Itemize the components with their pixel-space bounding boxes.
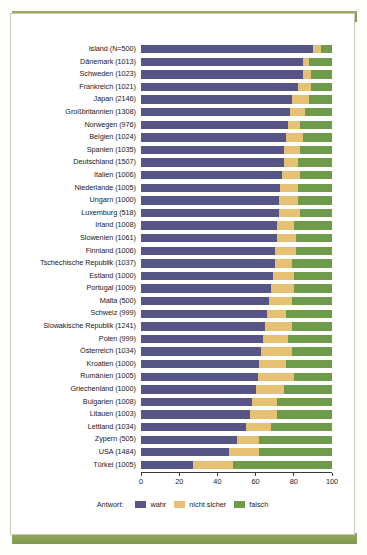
stacked-bar <box>141 108 332 116</box>
bar-segment-falsch <box>271 423 332 431</box>
bar-segment-wahr <box>141 234 277 242</box>
bar-segment-nicht-sicher <box>250 410 277 418</box>
bar-segment-falsch <box>294 373 332 381</box>
bar-segment-falsch <box>296 234 332 242</box>
category-label: Niederlande (1005) <box>10 182 141 195</box>
bar-segment-wahr <box>141 310 267 318</box>
bar-segment-falsch <box>294 221 332 229</box>
chart-row: Zypern (505) <box>10 433 355 446</box>
bar-segment-wahr <box>141 83 298 91</box>
bar-segment-falsch <box>300 121 332 129</box>
x-tick <box>217 473 218 476</box>
bar-segment-falsch <box>277 398 332 406</box>
category-label: Dänemark (1013) <box>10 56 141 69</box>
bar-segment-falsch <box>298 184 332 192</box>
x-tick-label: 80 <box>290 477 298 486</box>
chart-row: Ungarn (1000) <box>10 194 355 207</box>
category-label: Frankreich (1021) <box>10 81 141 94</box>
bar-segment-nicht-sicher <box>246 423 271 431</box>
legend-item: wahr <box>135 500 166 509</box>
x-tick <box>332 473 333 476</box>
bar-segment-falsch <box>321 45 332 53</box>
bar-segment-wahr <box>141 121 288 129</box>
bar-segment-nicht-sicher <box>277 234 296 242</box>
stacked-bar-chart: Island (N=500)Dänemark (1013)Schweden (1… <box>10 22 355 522</box>
chart-row: Slowakische Republik (1241) <box>10 320 355 333</box>
stacked-bar <box>141 234 332 242</box>
chart-rows: Island (N=500)Dänemark (1013)Schweden (1… <box>10 43 355 471</box>
stacked-bar <box>141 398 332 406</box>
bar-segment-wahr <box>141 322 265 330</box>
bar-segment-nicht-sicher <box>290 108 305 116</box>
stacked-bar <box>141 335 332 343</box>
bar-segment-wahr <box>141 209 279 217</box>
stacked-bar <box>141 461 332 469</box>
stacked-bar <box>141 247 332 255</box>
bar-segment-nicht-sicher <box>229 448 260 456</box>
chart-row: Japan (2146) <box>10 93 355 106</box>
bar-segment-falsch <box>286 360 332 368</box>
bar-segment-wahr <box>141 70 303 78</box>
category-label: Malta (500) <box>10 295 141 308</box>
bar-segment-wahr <box>141 133 286 141</box>
bar-segment-nicht-sicher <box>265 322 292 330</box>
bar-segment-nicht-sicher <box>261 347 292 355</box>
stacked-bar <box>141 297 332 305</box>
chart-row: Slowenien (1061) <box>10 232 355 245</box>
bar-segment-falsch <box>277 410 332 418</box>
stacked-bar <box>141 171 332 179</box>
chart-row: Deutschland (1507) <box>10 156 355 169</box>
bar-segment-wahr <box>141 448 229 456</box>
chart-row: Griechenland (1000) <box>10 383 355 396</box>
category-label: Griechenland (1000) <box>10 383 141 396</box>
category-label: Luxemburg (518) <box>10 207 141 220</box>
x-tick-label: 40 <box>213 477 221 486</box>
category-label: Slowenien (1061) <box>10 232 141 245</box>
legend-item: falsch <box>234 500 268 509</box>
stacked-bar <box>141 272 332 280</box>
bar-segment-nicht-sicher <box>282 171 299 179</box>
bar-segment-falsch <box>286 310 332 318</box>
category-label: Finnland (1006) <box>10 245 141 258</box>
bar-segment-nicht-sicher <box>313 45 321 53</box>
x-tick <box>141 473 142 476</box>
bar-segment-nicht-sicher <box>277 221 294 229</box>
bar-segment-wahr <box>141 184 280 192</box>
category-label: Großbritannien (1308) <box>10 106 141 119</box>
stacked-bar <box>141 158 332 166</box>
stacked-bar <box>141 322 332 330</box>
stacked-bar <box>141 196 332 204</box>
category-label: Ungarn (1000) <box>10 194 141 207</box>
bar-segment-nicht-sicher <box>193 461 233 469</box>
bar-segment-nicht-sicher <box>256 385 285 393</box>
chart-row: Frankreich (1021) <box>10 81 355 94</box>
bar-segment-wahr <box>141 461 193 469</box>
bar-segment-wahr <box>141 45 313 53</box>
legend-swatch-icon <box>135 501 146 508</box>
category-label: Schweiz (999) <box>10 307 141 320</box>
bar-segment-wahr <box>141 410 250 418</box>
x-tick-label: 60 <box>252 477 260 486</box>
bar-segment-nicht-sicher <box>286 133 303 141</box>
stacked-bar <box>141 209 332 217</box>
bar-segment-falsch <box>294 284 332 292</box>
stacked-bar <box>141 423 332 431</box>
bar-segment-falsch <box>303 133 332 141</box>
category-label: Lettland (1034) <box>10 421 141 434</box>
bar-segment-wahr <box>141 398 252 406</box>
bar-segment-falsch <box>284 385 332 393</box>
bar-segment-nicht-sicher <box>271 284 294 292</box>
stacked-bar <box>141 310 332 318</box>
bar-segment-wahr <box>141 284 271 292</box>
bar-segment-wahr <box>141 196 279 204</box>
x-axis-tick-labels: 020406080100 <box>141 477 332 489</box>
category-label: Estland (1000) <box>10 270 141 283</box>
stacked-bar <box>141 259 332 267</box>
chart-row: Tschechische Republik (1037) <box>10 257 355 270</box>
bar-segment-nicht-sicher <box>292 95 309 103</box>
bar-segment-nicht-sicher <box>258 373 294 381</box>
chart-row: Belgien (1024) <box>10 131 355 144</box>
chart-row: Großbritannien (1308) <box>10 106 355 119</box>
bar-segment-falsch <box>300 209 332 217</box>
bar-segment-wahr <box>141 347 261 355</box>
